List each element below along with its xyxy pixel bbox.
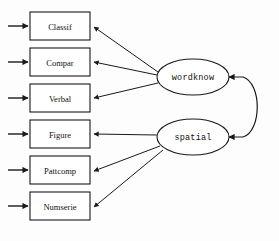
loading-spatial-figure (94, 134, 157, 135)
observed-label-classif: Classif (48, 22, 72, 32)
loading-arrows-spatial (94, 134, 163, 207)
loading-arrows-wordknow (94, 27, 158, 98)
latent-label-wordknow: wordknow (172, 73, 215, 83)
loading-spatial-numserie (94, 150, 163, 207)
observed-variable-numserie[interactable]: Numserie (30, 192, 90, 220)
loading-wordknow-compar (94, 62, 157, 75)
observed-label-numserie: Numserie (43, 202, 76, 212)
sem-path-diagram: Classif Compar Verbal Figure Pattcomp Nu… (0, 0, 279, 241)
observed-variable-classif[interactable]: Classif (30, 12, 90, 40)
loading-spatial-pattcomp (94, 146, 160, 171)
loading-wordknow-classif (94, 27, 158, 72)
loading-wordknow-verbal (94, 83, 158, 98)
observed-variable-compar[interactable]: Compar (30, 48, 90, 76)
latent-label-spatial: spatial (174, 133, 211, 143)
residual-arrows (8, 26, 28, 206)
observed-label-figure: Figure (49, 130, 71, 140)
latent-factor-wordknow[interactable]: wordknow (157, 59, 229, 95)
latent-factor-spatial[interactable]: spatial (157, 119, 229, 155)
observed-label-pattcomp: Pattcomp (44, 166, 76, 176)
observed-label-compar: Compar (46, 58, 74, 68)
observed-variable-verbal[interactable]: Verbal (30, 84, 90, 112)
covariance-arrow-wordknow-spatial (229, 77, 257, 137)
observed-label-verbal: Verbal (49, 94, 72, 104)
observed-variable-figure[interactable]: Figure (30, 120, 90, 148)
observed-variable-pattcomp[interactable]: Pattcomp (30, 156, 90, 184)
